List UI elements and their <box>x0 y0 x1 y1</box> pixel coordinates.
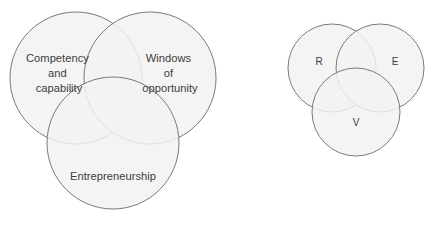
entrepreneurship-circle[interactable] <box>47 77 179 209</box>
entrepreneurship-label: Entrepreneurship <box>70 170 156 182</box>
venture-label: V <box>353 117 360 128</box>
label-line-1: Competency <box>26 52 89 64</box>
label-line-1: Windows <box>146 52 192 64</box>
resources-label: R <box>315 56 322 67</box>
label-line-1: Entrepreneurship <box>70 170 156 182</box>
venn-canvas: Competency and capability Windows of opp… <box>0 0 437 228</box>
venn-figure: Competency and capability Windows of opp… <box>0 0 437 228</box>
entrepreneur-label: E <box>392 56 399 67</box>
venture-circle[interactable] <box>312 68 400 156</box>
label-line-2: of <box>164 67 174 79</box>
label-line-3: opportunity <box>142 82 198 94</box>
label-line-2: and <box>48 67 67 79</box>
label-line-3: capability <box>36 82 83 94</box>
